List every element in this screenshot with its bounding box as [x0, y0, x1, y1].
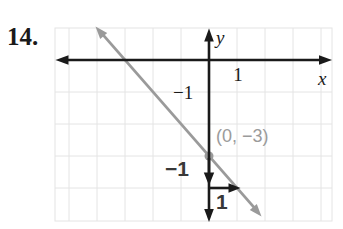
- y-axis: [204, 29, 214, 223]
- x-axis-left-arrowhead-icon: [56, 55, 69, 65]
- y-axis-top-arrowhead-icon: [204, 29, 214, 42]
- y-axis-bottom-arrowhead-icon: [204, 209, 214, 222]
- coordinate-plane: [0, 0, 343, 229]
- point-coordinates-label: (0, −3): [216, 127, 269, 145]
- textbook-graph-figure: 14. y x 1 −1 (0, −3) −1 1: [0, 0, 343, 229]
- x-axis-label: x: [318, 69, 326, 88]
- run-label: 1: [216, 191, 228, 212]
- rise-label: −1: [165, 158, 189, 179]
- rise-arrowhead-icon: [204, 173, 214, 186]
- grid: [55, 28, 332, 221]
- problem-number: 14.: [7, 24, 38, 49]
- y-axis-label: y: [216, 28, 224, 47]
- y-tick-label-neg1: −1: [173, 83, 193, 102]
- x-axis-right-arrowhead-icon: [319, 55, 332, 65]
- x-tick-label-1: 1: [232, 65, 244, 84]
